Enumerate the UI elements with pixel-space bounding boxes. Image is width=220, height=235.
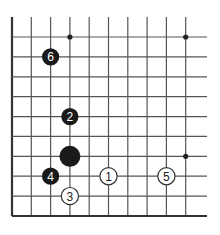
black-stone-4: 4 — [42, 168, 59, 185]
move-number: 3 — [67, 190, 74, 204]
star-point-icon — [67, 34, 72, 39]
move-number: 6 — [47, 50, 54, 64]
move-number: 1 — [105, 170, 112, 184]
black-stone-icon — [59, 146, 80, 167]
black-stone-2: 2 — [61, 108, 78, 125]
go-board: 123456 — [0, 0, 220, 235]
black-stone — [59, 146, 80, 167]
white-stone-1: 1 — [100, 168, 117, 185]
white-stone-3: 3 — [61, 188, 78, 205]
black-stone-6: 6 — [42, 48, 59, 65]
move-number: 4 — [47, 170, 54, 184]
move-number: 5 — [163, 170, 170, 184]
star-point-icon — [183, 154, 188, 159]
move-number: 2 — [67, 110, 74, 124]
grid-lines — [12, 17, 207, 216]
star-point-icon — [183, 34, 188, 39]
white-stone-5: 5 — [158, 168, 175, 185]
